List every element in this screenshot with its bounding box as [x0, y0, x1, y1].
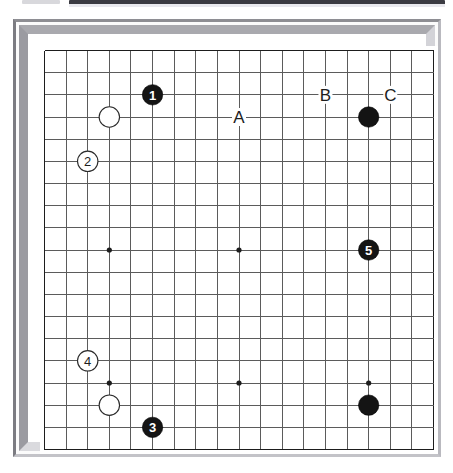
toolbar-fragment-icon [22, 0, 60, 4]
stone-white[interactable] [99, 107, 119, 127]
label-a: A [232, 108, 246, 127]
stone-b-3[interactable]: 3 [142, 417, 162, 437]
top-chrome-fragment [0, 0, 453, 9]
stone-black[interactable] [358, 107, 378, 127]
stone-white[interactable] [99, 395, 119, 415]
star-point-4-10 [107, 247, 112, 252]
point-label-text-A: A [233, 108, 245, 127]
star-point-10-10 [236, 247, 241, 252]
stone-number-1: 1 [149, 88, 156, 103]
point-label-text-B: B [320, 86, 331, 105]
star-point-16-16 [366, 380, 371, 385]
stone-w-c4r17[interactable] [99, 395, 119, 415]
title-bar-sheen [69, 4, 445, 7]
board-frame-bevel: 12543 ABC [19, 25, 435, 451]
label-c: C [383, 86, 397, 105]
stone-b-1[interactable]: 1 [142, 85, 162, 105]
board-surface[interactable]: 12543 ABC [40, 46, 438, 454]
stone-w-2[interactable]: 2 [78, 151, 98, 171]
star-point-10-16 [236, 380, 241, 385]
board-frame: 12543 ABC [13, 19, 441, 457]
stone-b-c16r4[interactable] [358, 107, 378, 127]
stones-layer[interactable]: 12543 [78, 85, 379, 438]
stone-number-3: 3 [149, 420, 156, 435]
stone-black[interactable] [358, 395, 378, 415]
stone-w-4[interactable]: 4 [78, 351, 98, 371]
stone-number-2: 2 [84, 154, 91, 169]
stone-w-c4r4[interactable] [99, 107, 119, 127]
star-point-4-16 [107, 380, 112, 385]
point-label-text-C: C [384, 86, 396, 105]
stone-number-5: 5 [365, 243, 372, 258]
goban-grid[interactable]: 12543 ABC [40, 46, 438, 454]
stone-b-c16r17[interactable] [358, 395, 378, 415]
label-b: B [318, 86, 332, 105]
stone-b-5[interactable]: 5 [358, 240, 378, 260]
stone-number-4: 4 [84, 354, 91, 369]
